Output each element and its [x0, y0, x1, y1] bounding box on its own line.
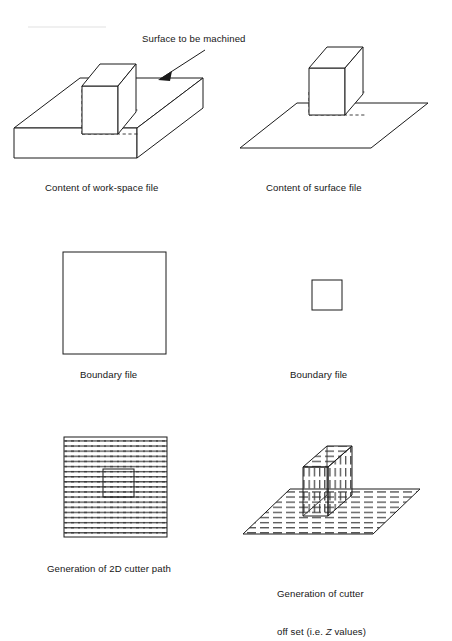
- panel-surface-drawing: [240, 47, 428, 148]
- caption-cutter-offset-line1: Generation of cutter: [277, 588, 366, 601]
- panel-cutter-path-drawing: [64, 437, 167, 540]
- caption-cutter-offset-line2: off set (i.e. Z values): [277, 626, 366, 639]
- surface-box-front-face: [309, 68, 345, 115]
- caption-work-space-file: Content of work-space file: [45, 182, 159, 195]
- caption-surface-file: Content of surface file: [266, 182, 362, 195]
- offset-box-front-face: [303, 467, 328, 516]
- boundary-file-small-square: [312, 280, 342, 310]
- caption-boundary-file-small: Boundary file: [290, 369, 347, 382]
- panel-work-space-drawing: [14, 50, 205, 158]
- boundary-file-large-square: [63, 252, 166, 354]
- caption-offset-suffix: values): [332, 626, 366, 637]
- caption-2d-cutter-path: Generation of 2D cutter path: [47, 563, 171, 576]
- machined-surface-annotation: Surface to be machined: [142, 33, 246, 44]
- caption-boundary-file-large: Boundary file: [80, 369, 137, 382]
- box-front-face: [82, 86, 118, 134]
- caption-cutter-offset: Generation of cutter off set (i.e. Z val…: [277, 563, 366, 641]
- cutter-path-raster-fill-offset: [64, 440, 167, 540]
- leader-arrowhead-icon: [158, 71, 172, 81]
- panel-cutter-offset-drawing: [243, 446, 420, 534]
- machined-surface-leader: [158, 50, 205, 81]
- caption-offset-prefix: off set (i.e.: [277, 626, 326, 637]
